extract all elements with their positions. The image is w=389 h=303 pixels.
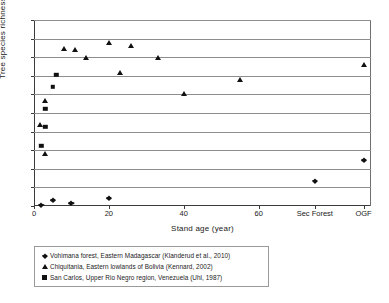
legend-marker-diamond-icon: [39, 250, 50, 261]
legend-item: Vohimana forest, Eastern Madagascar (Kla…: [39, 250, 264, 261]
y-tick-mark: [31, 20, 34, 21]
gridline: [34, 187, 371, 188]
x-tick-label: 40: [180, 209, 188, 218]
gridline: [34, 39, 371, 40]
plot-area: 05101520253035404550 0204060Sec ForestOG…: [34, 20, 371, 206]
data-point-triangle: [42, 151, 48, 156]
legend-marker-square-icon: [39, 272, 50, 283]
x-tick-label: Sec Forest: [297, 209, 333, 218]
gridline: [34, 76, 371, 77]
data-point-triangle: [106, 40, 112, 45]
data-point-triangle: [361, 62, 367, 67]
gridline: [34, 20, 371, 21]
gridline: [34, 113, 371, 114]
data-point-triangle: [181, 91, 187, 96]
data-point-square: [51, 84, 55, 88]
data-point-square: [43, 106, 47, 110]
data-point-triangle: [83, 55, 89, 60]
data-point-triangle: [128, 43, 134, 48]
gridline: [34, 150, 371, 151]
legend: Vohimana forest, Eastern Madagascar (Kla…: [34, 246, 269, 287]
chart-figure: 05101520253035404550 0204060Sec ForestOG…: [0, 0, 389, 303]
x-tick-label: 0: [32, 209, 36, 218]
y-tick-mark: [31, 169, 34, 170]
data-point-triangle: [42, 98, 48, 103]
legend-label: San Carlos, Upper Rio Negro region, Vene…: [50, 274, 222, 281]
y-tick-mark: [31, 187, 34, 188]
x-axis-title: Stand age (year): [34, 224, 371, 233]
y-axis-title: Tree species richness: [0, 0, 7, 113]
legend-marker-triangle-icon: [39, 261, 50, 272]
y-tick-mark: [31, 150, 34, 151]
data-point-triangle: [37, 122, 43, 127]
data-point-triangle: [72, 47, 78, 52]
gridline: [34, 169, 371, 170]
legend-item: Chiquitania, Eastern lowlands of Bolivia…: [39, 261, 264, 272]
data-point-triangle: [155, 55, 161, 60]
legend-label: Chiquitania, Eastern lowlands of Bolivia…: [50, 263, 213, 270]
data-point-square: [39, 144, 43, 148]
gridline: [34, 94, 371, 95]
y-tick-mark: [31, 76, 34, 77]
data-point-square: [43, 125, 47, 129]
data-point-triangle: [237, 77, 243, 82]
gridline: [34, 132, 371, 133]
y-tick-mark: [31, 132, 34, 133]
data-point-square: [54, 73, 58, 77]
data-point-triangle: [61, 46, 67, 51]
y-tick-mark: [31, 94, 34, 95]
x-tick-label: OGF: [355, 209, 371, 218]
legend-item: San Carlos, Upper Rio Negro region, Vene…: [39, 272, 264, 283]
data-point-triangle: [117, 70, 123, 75]
legend-label: Vohimana forest, Eastern Madagascar (Kla…: [50, 252, 230, 259]
y-tick-mark: [31, 113, 34, 114]
y-tick-mark: [31, 57, 34, 58]
x-tick-label: 60: [254, 209, 262, 218]
x-tick-label: 20: [105, 209, 113, 218]
y-tick-mark: [31, 39, 34, 40]
